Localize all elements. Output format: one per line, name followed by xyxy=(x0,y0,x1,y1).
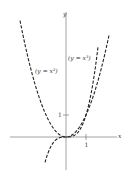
x-tick-label: 1 xyxy=(85,142,89,148)
cubic-curve xyxy=(45,47,98,163)
cubic-label: (y = x³) xyxy=(68,55,91,61)
parabola-label: (y = x²) xyxy=(35,68,58,74)
parabola-curve xyxy=(20,21,109,137)
graph-canvas xyxy=(0,0,130,175)
y-tick-label: 1 xyxy=(58,112,62,118)
x-axis-label: x xyxy=(118,133,121,139)
y-axis-label: y xyxy=(63,11,66,17)
